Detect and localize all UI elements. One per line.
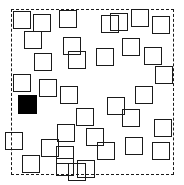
- outline-square[interactable]: [144, 47, 162, 65]
- outline-square[interactable]: [60, 86, 78, 104]
- outline-square[interactable]: [33, 14, 51, 32]
- outline-square[interactable]: [59, 10, 77, 28]
- outline-square[interactable]: [122, 109, 140, 127]
- outline-square[interactable]: [101, 15, 119, 33]
- outline-square[interactable]: [154, 119, 172, 137]
- filled-target-square[interactable]: [18, 95, 37, 114]
- visual-search-canvas: [0, 0, 184, 185]
- outline-square[interactable]: [125, 137, 143, 155]
- outline-square[interactable]: [131, 9, 149, 27]
- outline-square[interactable]: [57, 124, 75, 142]
- outline-square[interactable]: [68, 51, 86, 69]
- outline-square[interactable]: [155, 66, 173, 84]
- outline-square[interactable]: [76, 108, 94, 126]
- outline-square[interactable]: [24, 31, 42, 49]
- outline-square[interactable]: [5, 132, 23, 150]
- outline-square[interactable]: [22, 155, 40, 173]
- outline-square[interactable]: [97, 142, 115, 160]
- outline-square[interactable]: [135, 86, 153, 104]
- outline-square[interactable]: [13, 74, 31, 92]
- outline-square[interactable]: [96, 48, 114, 66]
- outline-square[interactable]: [13, 11, 31, 29]
- outline-square[interactable]: [152, 142, 170, 160]
- outline-square[interactable]: [34, 53, 52, 71]
- outline-square[interactable]: [39, 79, 57, 97]
- outline-square[interactable]: [122, 38, 140, 56]
- outline-square[interactable]: [68, 163, 86, 181]
- outline-square[interactable]: [152, 16, 170, 34]
